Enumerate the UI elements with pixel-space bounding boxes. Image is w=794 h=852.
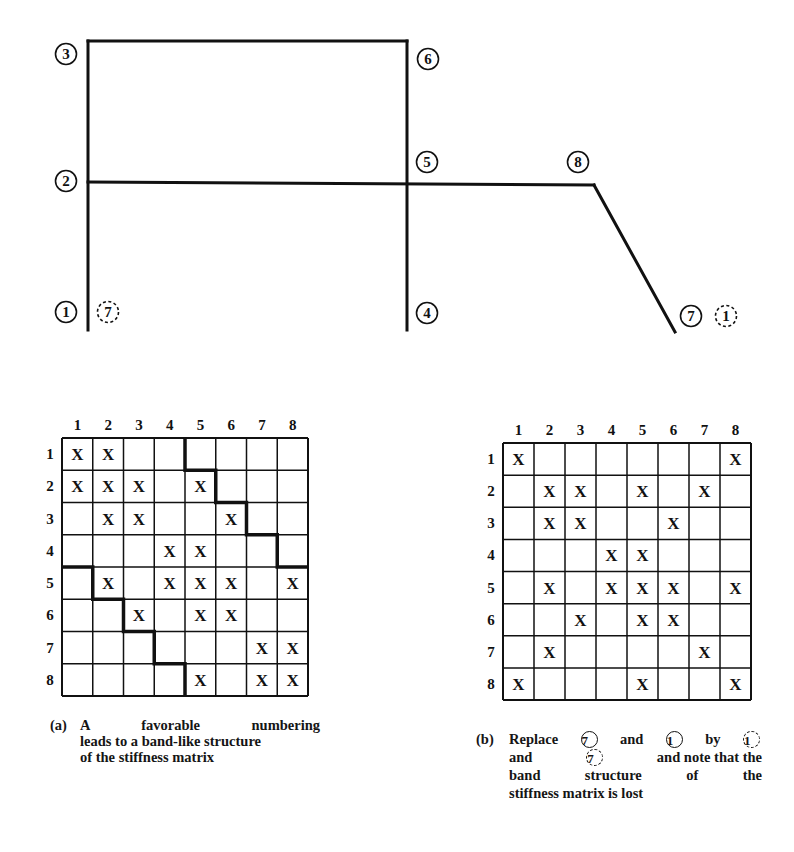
- nonzero-entry: X: [194, 606, 207, 625]
- row-label: 8: [46, 672, 54, 688]
- row-label: 4: [46, 543, 54, 559]
- nonzero-entry: X: [605, 579, 618, 598]
- node-circle-icon: 7: [581, 731, 598, 748]
- node-3: 3: [56, 44, 77, 65]
- column-label: 3: [577, 422, 585, 438]
- column-label: 6: [227, 417, 235, 433]
- nonzero-entry: X: [256, 639, 269, 658]
- nonzero-entry: X: [698, 643, 711, 662]
- caption-b-line-3: band structure of the: [509, 766, 762, 784]
- caption-word: Replace: [509, 730, 558, 748]
- nonzero-entry: X: [574, 514, 587, 533]
- nonzero-entry: X: [605, 546, 618, 565]
- caption-b-line-1: Replace 7 and 1 by 1: [509, 730, 762, 748]
- column-label: 1: [515, 422, 523, 438]
- node-label: 5: [423, 154, 431, 170]
- nonzero-entry: X: [574, 611, 587, 630]
- nonzero-entry: X: [636, 579, 649, 598]
- row-label: 7: [487, 644, 495, 660]
- column-label: 7: [701, 422, 709, 438]
- nonzero-entry: X: [636, 611, 649, 630]
- column-label: 3: [135, 417, 143, 433]
- nonzero-entry: X: [102, 477, 115, 496]
- node-4: 4: [417, 303, 438, 324]
- nonzero-entry: X: [163, 574, 176, 593]
- node-1: 1: [56, 302, 77, 323]
- caption-word: and: [509, 748, 532, 766]
- row-label: 3: [487, 515, 495, 531]
- stiffness-matrix-b: 1234567812345678XXXXXXXXXXXXXXXXXXXXXXXX: [487, 422, 751, 700]
- column-label: 2: [546, 422, 554, 438]
- nonzero-entry: X: [543, 579, 556, 598]
- nonzero-entry: X: [729, 450, 742, 469]
- column-label: 7: [258, 417, 266, 433]
- node-7: 7: [681, 306, 702, 327]
- nonzero-entry: X: [698, 482, 711, 501]
- nonzero-entry: X: [667, 579, 680, 598]
- node-5: 5: [417, 152, 438, 173]
- row-label: 8: [487, 676, 495, 692]
- node-label: 2: [62, 173, 70, 189]
- column-label: 8: [732, 422, 740, 438]
- dashed-node-circle-icon: 7: [586, 749, 603, 766]
- row-label: 6: [46, 607, 54, 623]
- nonzero-entry: X: [71, 445, 84, 464]
- dashed-node-alt-7: 7: [98, 302, 119, 323]
- nonzero-entry: X: [225, 574, 238, 593]
- row-label: 2: [487, 483, 495, 499]
- caption-a-line-2: leads to a band-like structure: [80, 733, 320, 749]
- nonzero-entry: X: [102, 445, 115, 464]
- row-label: 6: [487, 612, 495, 628]
- nonzero-entry: X: [543, 482, 556, 501]
- dashed-node-circle-icon: 1: [743, 731, 760, 748]
- nonzero-entry: X: [225, 606, 238, 625]
- node-label: 3: [62, 46, 70, 62]
- node-label: 7: [687, 308, 695, 324]
- caption-word: by: [705, 730, 720, 748]
- nonzero-entry: X: [256, 671, 269, 690]
- nonzero-entry: X: [512, 675, 525, 694]
- node-label: 6: [424, 51, 432, 67]
- column-label: 6: [670, 422, 678, 438]
- nonzero-entry: X: [286, 639, 299, 658]
- caption-b: (b) Replace 7 and 1 by 1 and 7 and note …: [476, 730, 776, 810]
- nonzero-entry: X: [194, 574, 207, 593]
- node-label: 7: [104, 304, 112, 320]
- frame-member: [88, 182, 594, 185]
- nonzero-entry: X: [102, 574, 115, 593]
- nonzero-entry: X: [194, 477, 207, 496]
- node-circle-icon: 1: [666, 731, 683, 748]
- nonzero-entry: X: [543, 514, 556, 533]
- caption-a: (a) A favorable numbering leads to a ban…: [50, 717, 320, 769]
- node-label: 1: [62, 304, 70, 320]
- row-label: 4: [487, 547, 495, 563]
- row-label: 1: [487, 451, 495, 467]
- nonzero-entry: X: [512, 450, 525, 469]
- nonzero-entry: X: [133, 606, 146, 625]
- caption-word: and: [620, 730, 643, 748]
- caption-b-line-4: stiffness matrix is lost: [509, 784, 762, 802]
- nonzero-entry: X: [636, 675, 649, 694]
- node-label: 1: [722, 308, 730, 324]
- row-label: 3: [46, 511, 54, 527]
- nonzero-entry: X: [102, 510, 115, 529]
- nonzero-entry: X: [225, 510, 238, 529]
- nonzero-entry: X: [286, 574, 299, 593]
- nonzero-entry: X: [667, 611, 680, 630]
- column-label: 5: [197, 417, 205, 433]
- node-2: 2: [56, 171, 77, 192]
- nonzero-entry: X: [133, 477, 146, 496]
- frame-member: [594, 185, 675, 332]
- nonzero-entry: X: [163, 542, 176, 561]
- column-label: 2: [104, 417, 112, 433]
- nonzero-entry: X: [667, 514, 680, 533]
- dashed-node-alt-1: 1: [716, 306, 737, 327]
- row-label: 5: [487, 580, 495, 596]
- nonzero-entry: X: [286, 671, 299, 690]
- frame-members: [88, 41, 675, 332]
- nonzero-entry: X: [194, 671, 207, 690]
- caption-b-tag: (b): [476, 730, 494, 748]
- nonzero-entry: X: [543, 643, 556, 662]
- caption-word: and note that the: [657, 748, 762, 766]
- caption-a-line-1: A favorable numbering: [80, 717, 320, 733]
